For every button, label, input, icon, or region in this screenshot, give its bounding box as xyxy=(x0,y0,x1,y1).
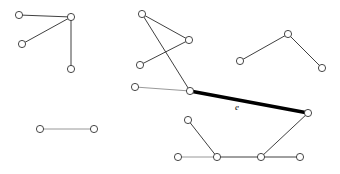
graph-vertex xyxy=(304,109,311,116)
graph-edge xyxy=(142,14,189,40)
graph-figure: e xyxy=(0,0,340,174)
graph-vertex xyxy=(236,57,243,64)
graph-edge-highlighted xyxy=(190,91,308,113)
graph-vertex xyxy=(185,36,192,43)
graph-vertex xyxy=(15,11,22,18)
graph-edge xyxy=(22,17,71,44)
graph-edge xyxy=(140,40,189,65)
graph-vertex xyxy=(67,65,74,72)
graph-vertex xyxy=(67,13,74,20)
graph-edge xyxy=(19,15,71,17)
graph-vertex xyxy=(174,153,181,160)
graph-vertex xyxy=(36,125,43,132)
graph-edge xyxy=(261,113,308,157)
graph-canvas: e xyxy=(0,0,340,174)
graph-edge xyxy=(188,120,217,157)
graph-vertex xyxy=(131,83,138,90)
graph-edge xyxy=(142,14,190,91)
vertices-layer xyxy=(15,10,325,160)
graph-vertex xyxy=(138,10,145,17)
graph-vertex xyxy=(18,40,25,47)
graph-edge xyxy=(240,34,288,61)
graph-vertex xyxy=(90,125,97,132)
graph-vertex xyxy=(318,64,325,71)
graph-vertex xyxy=(186,87,193,94)
labels-layer: e xyxy=(235,102,239,112)
graph-vertex xyxy=(284,30,291,37)
edge-label: e xyxy=(235,102,239,112)
graph-vertex xyxy=(296,153,303,160)
graph-vertex xyxy=(257,153,264,160)
graph-vertex xyxy=(184,116,191,123)
graph-vertex xyxy=(136,61,143,68)
graph-edge xyxy=(135,87,190,91)
graph-edge xyxy=(288,34,322,68)
graph-vertex xyxy=(213,153,220,160)
edges-layer xyxy=(19,14,322,157)
